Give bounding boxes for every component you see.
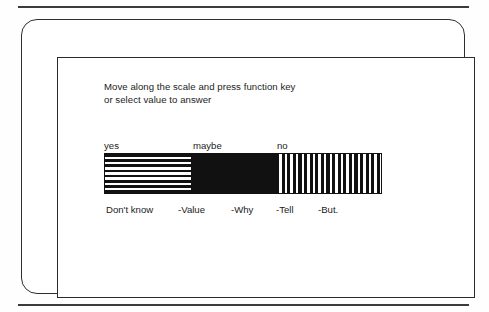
function-key-labels: Don't know -Value -Why -Tell -But. <box>104 203 382 217</box>
function-key-tell[interactable]: -Tell <box>276 203 294 217</box>
scale-label-maybe: maybe <box>193 139 222 153</box>
scale-bar[interactable] <box>104 153 382 194</box>
instruction-text: Move along the scale and press function … <box>104 80 295 106</box>
scale-label-yes: yes <box>104 139 119 153</box>
page-rule-top <box>18 6 469 8</box>
scale-label-no: no <box>277 139 288 153</box>
function-key-why[interactable]: -Why <box>231 203 253 217</box>
function-key-dont-know[interactable]: Don't know <box>106 203 153 217</box>
scale-segment-maybe[interactable] <box>191 154 276 193</box>
instruction-line-1: Move along the scale and press function … <box>104 80 295 93</box>
answer-scale-widget[interactable]: yes maybe no Don't know -Value -Why -Tel… <box>104 139 382 217</box>
figure-page: Move along the scale and press function … <box>0 0 489 312</box>
instruction-line-2: or select value to answer <box>104 93 295 106</box>
page-rule-bottom <box>18 304 469 306</box>
function-key-but[interactable]: -But. <box>318 203 338 217</box>
function-key-value[interactable]: -Value <box>178 203 205 217</box>
scale-segment-no[interactable] <box>276 154 381 193</box>
scale-anchor-labels: yes maybe no <box>104 139 382 153</box>
scale-segment-yes[interactable] <box>105 154 191 193</box>
